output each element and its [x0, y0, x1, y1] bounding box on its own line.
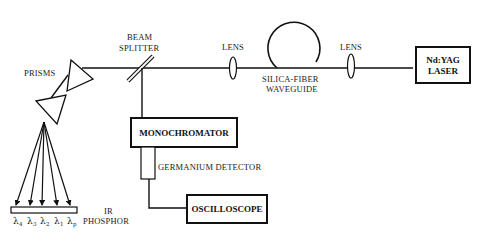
oscilloscope-label: OSCILLOSCOPE	[191, 204, 262, 214]
lens-right-label: LENS	[340, 42, 362, 52]
prism-lower	[36, 95, 66, 124]
ir-phosphor-plate	[11, 207, 77, 213]
fiber-label-line2: WAVEGUIDE	[266, 84, 318, 94]
germanium-detector	[141, 147, 155, 179]
laser-label-line1: Nd:YAG	[426, 55, 460, 65]
detector-to-oscilloscope-line	[149, 179, 187, 208]
prisms-label: PRISMS	[24, 68, 56, 78]
svg-text:2: 2	[46, 221, 50, 227]
lens-left-label: LENS	[222, 42, 244, 52]
prism-upper	[67, 60, 93, 91]
svg-text:4: 4	[19, 221, 23, 227]
fiber-coil	[268, 22, 320, 68]
monochromator-label: MONOCHROMATOR	[139, 128, 229, 138]
wavelength-labels: λ4 λ3 λ2 λ1 λp	[13, 216, 77, 228]
fiber-label-line1: SILICA-FIBER	[262, 74, 319, 84]
lens-right	[348, 54, 355, 78]
laser-label-line2: LASER	[428, 66, 459, 76]
dispersed-beams	[16, 122, 70, 205]
phosphor-label-line2: PHOSPHOR	[83, 216, 129, 226]
svg-text:1: 1	[60, 221, 64, 227]
optical-diagram: PRISMS IR PHOSPHOR λ4 λ3 λ2 λ1 λp BEAM S…	[0, 0, 481, 238]
laser-box	[416, 47, 470, 83]
svg-text:3: 3	[33, 221, 37, 227]
beam-splitter-label-line2: SPLITTER	[119, 43, 159, 53]
detector-label: GERMANIUM DETECTOR	[158, 162, 261, 172]
beam-splitter-label-line1: BEAM	[127, 32, 153, 42]
svg-text:p: p	[73, 221, 77, 228]
phosphor-label-line1: IR	[104, 206, 113, 216]
lens-left	[230, 57, 237, 79]
